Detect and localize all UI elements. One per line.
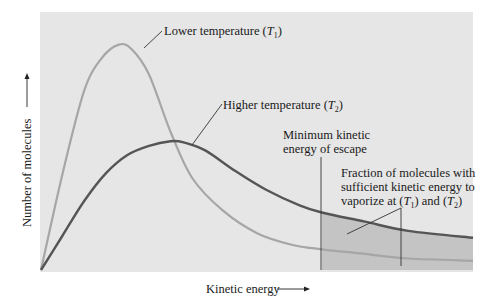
- x-axis-arrow-icon: [304, 287, 310, 292]
- maxwell-boltzmann-chart: Lower temperature (T1) Higher temperatur…: [0, 0, 489, 308]
- t1-label: Lower temperature (T1): [164, 24, 282, 40]
- fraction-label-line1: Fraction of molecules with: [341, 166, 476, 180]
- fraction-label-line2: sufficient kinetic energy to: [341, 180, 475, 194]
- t2-label: Higher temperature (T2): [223, 98, 343, 114]
- x-axis-label: Kinetic energy: [206, 282, 280, 296]
- threshold-label-line2: energy of escape: [283, 142, 367, 156]
- y-axis-label: Number of molecules: [20, 119, 34, 227]
- y-axis-arrow-icon: [25, 73, 30, 79]
- threshold-label-line1: Minimum kinetic: [283, 128, 371, 142]
- fraction-label-line3: vaporize at (T1) and (T2): [341, 194, 462, 210]
